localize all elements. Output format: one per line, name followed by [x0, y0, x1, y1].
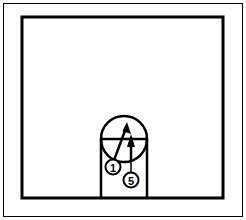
figure-background — [0, 0, 246, 220]
reference-numeral-5-label: 5 — [128, 175, 134, 187]
patent-figure-container: 1 5 — [0, 0, 246, 220]
reference-numeral-1-label: 1 — [110, 162, 116, 174]
patent-figure-drawing: 1 5 — [0, 0, 246, 220]
